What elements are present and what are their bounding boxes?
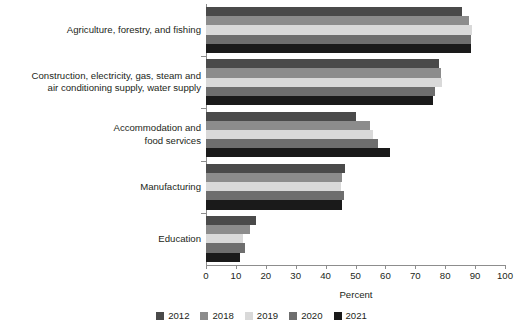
bar-row bbox=[206, 191, 505, 200]
bar-group bbox=[206, 216, 505, 262]
bar-2021-1 bbox=[206, 44, 471, 53]
bar-row bbox=[206, 139, 505, 148]
legend-label: 2019 bbox=[257, 311, 278, 321]
category-label-line: Construction, electricity, gas, steam an… bbox=[5, 70, 201, 82]
y-axis-tick bbox=[201, 56, 206, 57]
x-axis-title: Percent bbox=[206, 289, 506, 300]
bar-2019-1 bbox=[206, 25, 472, 34]
x-axis-tick-label: 0 bbox=[191, 270, 221, 281]
legend: 20122018201920202021 bbox=[0, 311, 523, 321]
bar-row bbox=[206, 225, 505, 234]
plot-area bbox=[206, 4, 505, 265]
category-label-line: Manufacturing bbox=[5, 181, 201, 193]
bar-2021-4 bbox=[206, 200, 342, 209]
bar-row bbox=[206, 112, 505, 121]
bar-2018-3 bbox=[206, 121, 370, 130]
bar-row bbox=[206, 59, 505, 68]
category-label-line: Agriculture, forestry, and fishing bbox=[5, 24, 201, 36]
legend-item-2012[interactable]: 2012 bbox=[156, 311, 189, 321]
bar-group bbox=[206, 164, 505, 210]
bar-row bbox=[206, 16, 505, 25]
x-axis-tick-label: 100 bbox=[490, 270, 520, 281]
bar-row bbox=[206, 234, 505, 243]
bar-2021-5 bbox=[206, 253, 240, 262]
bar-2018-2 bbox=[206, 68, 441, 77]
legend-swatch-icon bbox=[200, 312, 208, 320]
category-label-line: Education bbox=[5, 233, 201, 245]
legend-swatch-icon bbox=[289, 312, 297, 320]
bar-row bbox=[206, 130, 505, 139]
bar-2020-5 bbox=[206, 243, 245, 252]
bar-2012-5 bbox=[206, 216, 256, 225]
bar-row bbox=[206, 87, 505, 96]
bar-2020-1 bbox=[206, 35, 471, 44]
bar-row bbox=[206, 173, 505, 182]
bar-2021-3 bbox=[206, 148, 390, 157]
bar-row bbox=[206, 7, 505, 16]
bar-row bbox=[206, 35, 505, 44]
category-label: Accommodation andfood services bbox=[5, 122, 201, 147]
bar-2021-2 bbox=[206, 96, 433, 105]
category-labels: Agriculture, forestry, and fishingConstr… bbox=[0, 0, 201, 261]
bar-row bbox=[206, 96, 505, 105]
category-label-line: air conditioning supply, water supply bbox=[5, 82, 201, 94]
legend-item-2019[interactable]: 2019 bbox=[245, 311, 278, 321]
legend-item-2021[interactable]: 2021 bbox=[334, 311, 367, 321]
x-axis-tick bbox=[505, 265, 506, 269]
y-axis-tick bbox=[201, 161, 206, 162]
legend-label: 2018 bbox=[212, 311, 233, 321]
category-label: Education bbox=[5, 233, 201, 245]
x-axis-tick-label: 70 bbox=[400, 270, 430, 281]
bar-row bbox=[206, 121, 505, 130]
bar-2019-4 bbox=[206, 182, 341, 191]
x-axis-tick-label: 40 bbox=[311, 270, 341, 281]
bar-2012-1 bbox=[206, 7, 462, 16]
bar-2020-2 bbox=[206, 87, 435, 96]
bar-group bbox=[206, 7, 505, 53]
bar-row bbox=[206, 148, 505, 157]
legend-label: 2020 bbox=[301, 311, 322, 321]
x-axis-tick-label: 80 bbox=[430, 270, 460, 281]
bar-2018-5 bbox=[206, 225, 250, 234]
bar-2019-2 bbox=[206, 78, 442, 87]
bar-row bbox=[206, 253, 505, 262]
bar-2019-5 bbox=[206, 234, 243, 243]
category-label-line: Accommodation and bbox=[5, 122, 201, 134]
y-axis-tick bbox=[201, 108, 206, 109]
x-axis-tick bbox=[445, 265, 446, 269]
x-axis-tick bbox=[385, 265, 386, 269]
bar-row bbox=[206, 78, 505, 87]
y-axis-tick bbox=[201, 213, 206, 214]
x-axis-tick bbox=[206, 265, 207, 269]
bar-row bbox=[206, 200, 505, 209]
bar-row bbox=[206, 44, 505, 53]
category-label: Construction, electricity, gas, steam an… bbox=[5, 70, 201, 95]
category-label: Manufacturing bbox=[5, 181, 201, 193]
category-label-line: food services bbox=[5, 135, 201, 147]
x-axis-tick bbox=[236, 265, 237, 269]
legend-swatch-icon bbox=[156, 312, 164, 320]
bar-2012-2 bbox=[206, 59, 439, 68]
bar-group bbox=[206, 112, 505, 158]
x-axis-tick bbox=[326, 265, 327, 269]
legend-swatch-icon bbox=[334, 312, 342, 320]
x-axis-tick-label: 60 bbox=[370, 270, 400, 281]
bar-group bbox=[206, 59, 505, 105]
bar-chart: Agriculture, forestry, and fishingConstr… bbox=[0, 0, 523, 335]
category-label: Agriculture, forestry, and fishing bbox=[5, 24, 201, 36]
bar-row bbox=[206, 68, 505, 77]
x-axis-tick bbox=[296, 265, 297, 269]
bar-2019-3 bbox=[206, 130, 373, 139]
x-axis-tick-label: 20 bbox=[251, 270, 281, 281]
bar-2018-1 bbox=[206, 16, 469, 25]
x-axis-tick bbox=[266, 265, 267, 269]
legend-item-2020[interactable]: 2020 bbox=[289, 311, 322, 321]
legend-item-2018[interactable]: 2018 bbox=[200, 311, 233, 321]
bar-row bbox=[206, 164, 505, 173]
bar-2020-3 bbox=[206, 139, 378, 148]
x-axis-tick bbox=[415, 265, 416, 269]
bar-row bbox=[206, 25, 505, 34]
x-axis-tick bbox=[356, 265, 357, 269]
bar-2012-3 bbox=[206, 112, 356, 121]
bar-2018-4 bbox=[206, 173, 342, 182]
